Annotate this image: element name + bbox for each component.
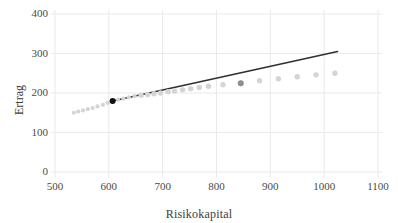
y-tick-label: 300: [18, 47, 48, 59]
data-point: [295, 74, 300, 79]
data-point: [206, 84, 211, 89]
x-tick-label: 1100: [358, 180, 398, 192]
data-point: [257, 78, 262, 83]
data-point: [81, 108, 85, 112]
data-point: [127, 95, 131, 99]
data-point: [313, 72, 318, 77]
data-point: [151, 91, 156, 96]
y-axis-title: Ertrag: [12, 85, 27, 115]
data-point: [101, 103, 105, 107]
x-tick-label: 500: [35, 180, 75, 192]
data-point: [72, 111, 76, 115]
data-point: [116, 98, 120, 102]
data-point: [106, 101, 110, 105]
data-point: [220, 82, 225, 87]
data-point: [86, 107, 90, 111]
data-point: [238, 80, 244, 86]
y-tick-label: 400: [18, 7, 48, 19]
data-point: [138, 93, 143, 98]
data-point: [110, 98, 116, 104]
chart-container: 0100200300400 50060070080090010001100 Er…: [0, 0, 398, 223]
data-point: [172, 88, 177, 93]
x-tick-label: 700: [143, 180, 183, 192]
y-tick-label: 0: [18, 165, 48, 177]
x-axis-title: Risikokapital: [0, 207, 398, 222]
data-point: [158, 90, 163, 95]
x-tick-label: 600: [89, 180, 129, 192]
data-point: [121, 96, 125, 100]
data-point: [91, 106, 95, 110]
data-point: [133, 94, 137, 98]
data-point: [188, 86, 193, 91]
data-point: [76, 109, 80, 113]
data-point: [165, 89, 170, 94]
x-tick-label: 1000: [304, 180, 344, 192]
data-point: [332, 71, 337, 76]
x-gridlines: [55, 10, 378, 178]
data-point: [180, 87, 185, 92]
x-tick-label: 800: [197, 180, 237, 192]
y-tick-label: 100: [18, 126, 48, 138]
x-tick-label: 900: [250, 180, 290, 192]
data-point: [145, 92, 150, 97]
data-point: [95, 104, 99, 108]
data-point: [276, 76, 281, 81]
data-point: [197, 85, 202, 90]
